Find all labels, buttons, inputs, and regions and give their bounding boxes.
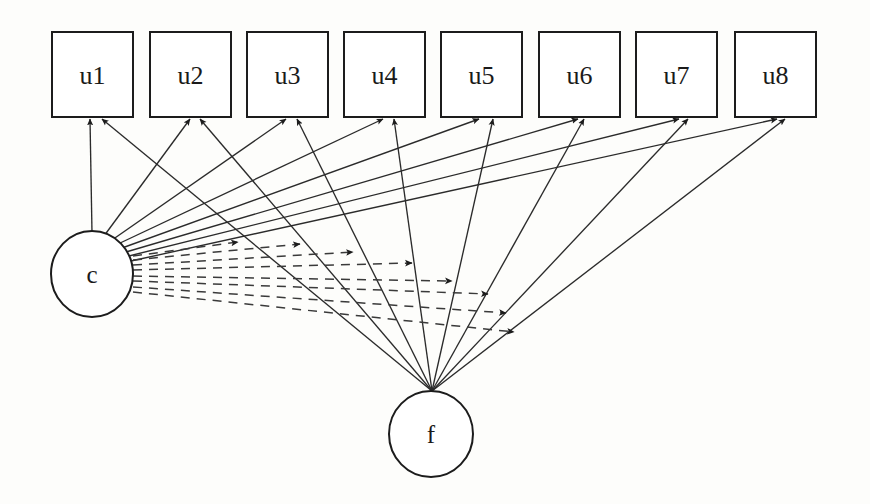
indicator-box-u5[interactable]: u5 [441,32,522,117]
edge-c-to-path1 [133,242,238,256]
edge-f-to-u1 [102,119,432,391]
circle-label-c: c [86,261,97,288]
edge-c-to-u8 [131,119,777,261]
box-label-u4: u4 [372,61,398,90]
box-label-u2: u2 [178,61,204,90]
box-label-u7: u7 [664,61,690,90]
edge-group-f-to-indicators [102,119,785,391]
indicator-box-u3[interactable]: u3 [247,32,328,117]
latent-node-c[interactable]: c [51,231,133,317]
indicator-box-group: u1u2u3u4u5u6u7u8 [52,32,816,117]
edge-group-c-dashed-paths [133,242,514,332]
latent-circle-group: cf [51,231,473,477]
edge-f-to-u4 [394,119,432,391]
circle-label-f: f [427,421,436,448]
edge-c-to-u3 [112,119,286,240]
edge-group-c-to-indicators [90,119,777,261]
box-label-u5: u5 [469,61,495,90]
edge-c-to-u6 [126,119,578,252]
edge-c-to-u1 [90,119,92,233]
edge-f-to-u2 [200,119,432,391]
latent-node-f[interactable]: f [389,391,473,477]
indicator-box-u2[interactable]: u2 [150,32,231,117]
indicator-box-u6[interactable]: u6 [539,32,620,117]
box-label-u6: u6 [567,61,593,90]
edge-f-to-u6 [432,119,584,391]
indicator-box-u8[interactable]: u8 [735,32,816,117]
diagram-canvas: u1u2u3u4u5u6u7u8 cf [0,0,870,504]
edge-c-to-u2 [104,119,190,236]
edge-c-to-path6 [133,281,488,294]
indicator-box-u4[interactable]: u4 [344,32,425,117]
path-diagram: u1u2u3u4u5u6u7u8 cf [0,0,870,504]
indicator-box-u1[interactable]: u1 [52,32,133,117]
box-label-u8: u8 [763,61,789,90]
edge-c-to-path2 [133,244,300,260]
box-label-u1: u1 [80,61,106,90]
edge-f-to-u7 [432,119,688,391]
edge-c-to-path8 [133,292,514,332]
edge-f-to-u8 [432,119,785,391]
box-label-u3: u3 [275,61,301,90]
indicator-box-u7[interactable]: u7 [636,32,717,117]
